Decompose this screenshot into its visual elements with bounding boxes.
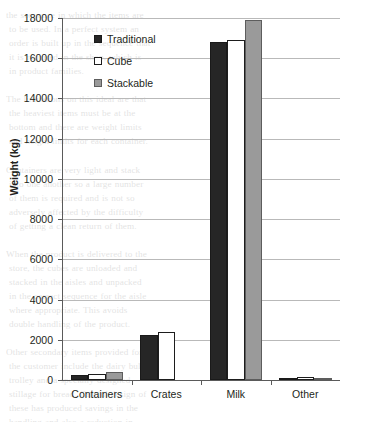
y-tick-mark-16000 bbox=[58, 58, 62, 59]
legend-swatch-cube bbox=[94, 57, 102, 65]
gridline-2000 bbox=[63, 340, 340, 341]
y-tick-mark-4000 bbox=[58, 300, 62, 301]
y-tick-label-0: 0 bbox=[47, 374, 53, 386]
bar-chart: the sequence in which the items are to b… bbox=[0, 0, 372, 422]
gridline-14000 bbox=[63, 98, 340, 99]
legend-swatch-traditional bbox=[94, 35, 102, 43]
y-tick-label-2000: 2000 bbox=[30, 334, 53, 346]
legend-item-stackable: Stackable bbox=[94, 74, 156, 91]
x-tick-label-crates: Crates bbox=[151, 388, 182, 400]
y-tick-label-4000: 4000 bbox=[30, 294, 53, 306]
gridline-12000 bbox=[63, 139, 340, 140]
bar-milk-traditional bbox=[210, 42, 228, 380]
bar-other-stackable bbox=[314, 378, 332, 380]
y-tick-mark-8000 bbox=[58, 219, 62, 220]
legend: Traditional Cube Stackable bbox=[94, 30, 156, 96]
bar-containers-cube bbox=[88, 374, 106, 380]
bar-crates-cube bbox=[158, 332, 176, 380]
y-axis-label: Weight (kg) bbox=[8, 79, 20, 255]
y-tick-mark-10000 bbox=[58, 179, 62, 180]
x-tick-label-milk: Milk bbox=[226, 388, 245, 400]
legend-label-traditional: Traditional bbox=[107, 33, 156, 45]
bar-milk-stackable bbox=[245, 20, 263, 380]
x-category-separator-1 bbox=[132, 380, 133, 385]
y-tick-label-14000: 14000 bbox=[24, 92, 53, 104]
bar-containers-stackable bbox=[106, 372, 124, 380]
y-tick-label-10000: 10000 bbox=[24, 173, 53, 185]
gridline-8000 bbox=[63, 219, 340, 220]
x-category-separator-3 bbox=[271, 380, 272, 385]
x-category-separator-2 bbox=[201, 380, 202, 385]
legend-item-traditional: Traditional bbox=[94, 30, 156, 47]
legend-item-cube: Cube bbox=[94, 52, 156, 69]
legend-swatch-stackable bbox=[94, 79, 102, 87]
y-tick-mark-2000 bbox=[58, 340, 62, 341]
y-axis-line bbox=[62, 18, 63, 381]
y-tick-mark-6000 bbox=[58, 259, 62, 260]
x-tick-label-other: Other bbox=[292, 388, 318, 400]
bar-other-traditional bbox=[279, 378, 297, 380]
y-tick-label-8000: 8000 bbox=[30, 213, 53, 225]
y-tick-mark-0 bbox=[58, 380, 62, 381]
y-tick-mark-18000 bbox=[58, 18, 62, 19]
y-tick-label-12000: 12000 bbox=[24, 133, 53, 145]
y-tick-mark-14000 bbox=[58, 98, 62, 99]
gridline-10000 bbox=[63, 179, 340, 180]
y-axis-label-container: Weight (kg) bbox=[4, 0, 20, 363]
bar-milk-cube bbox=[227, 40, 245, 380]
y-tick-mark-12000 bbox=[58, 139, 62, 140]
gridline-4000 bbox=[63, 300, 340, 301]
gridline-6000 bbox=[63, 259, 340, 260]
bar-crates-traditional bbox=[140, 335, 158, 380]
y-tick-label-16000: 16000 bbox=[24, 52, 53, 64]
y-tick-label-6000: 6000 bbox=[30, 253, 53, 265]
gridline-18000 bbox=[63, 18, 340, 19]
y-tick-label-18000: 18000 bbox=[24, 12, 53, 24]
legend-label-cube: Cube bbox=[107, 55, 132, 67]
legend-label-stackable: Stackable bbox=[107, 77, 153, 89]
bar-containers-traditional bbox=[71, 375, 89, 380]
bar-other-cube bbox=[297, 377, 315, 380]
x-tick-label-containers: Containers bbox=[71, 388, 122, 400]
plot-area: 0200040006000800010000120001400016000180… bbox=[62, 18, 340, 381]
